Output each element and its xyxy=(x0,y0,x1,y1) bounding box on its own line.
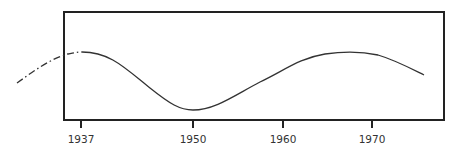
extrapolated-curve xyxy=(17,52,82,83)
trend-curve xyxy=(82,52,424,110)
tick-label-1960: 1960 xyxy=(270,133,297,145)
tick-label-1950: 1950 xyxy=(180,133,207,145)
tick-label-1937: 1937 xyxy=(68,133,95,145)
plot-frame xyxy=(64,12,444,120)
line-chart: 1937 1950 1960 1970 xyxy=(0,0,460,155)
tick-label-1970: 1970 xyxy=(359,133,386,145)
